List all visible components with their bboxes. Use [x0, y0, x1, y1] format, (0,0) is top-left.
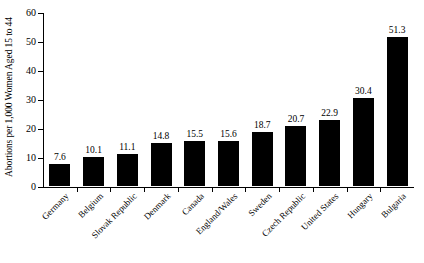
y-axis-tick: 60	[38, 13, 43, 14]
bar: 51.3	[387, 37, 408, 186]
x-axis-category-label-text: Sweden	[246, 191, 273, 218]
y-axis-tick: 20	[38, 129, 43, 130]
plot-area: 0102030405060 7.610.111.114.815.515.618.…	[43, 13, 414, 187]
bar-value-label: 7.6	[54, 151, 66, 163]
y-axis-tick-label: 30	[26, 93, 36, 106]
bar: 11.1	[117, 154, 138, 186]
x-axis-category-label-text: Denmark	[141, 191, 172, 222]
y-axis-tick: 40	[38, 71, 43, 72]
y-axis-tick: 50	[38, 42, 43, 43]
bar-value-label: 20.7	[288, 113, 305, 125]
bar: 7.6	[49, 164, 70, 186]
y-axis-tick-label: 10	[26, 151, 36, 164]
x-axis-tick	[380, 188, 381, 192]
y-axis-tick: 10	[38, 158, 43, 159]
x-axis-tick	[178, 188, 179, 192]
bar-value-label: 15.5	[186, 128, 203, 140]
x-axis-category-label-text: Canada	[180, 191, 206, 217]
bar-value-label: 51.3	[389, 24, 406, 36]
bar: 15.5	[184, 141, 205, 186]
x-axis-tick	[212, 188, 213, 192]
bar: 18.7	[252, 132, 273, 186]
y-axis-title: Abortions per 1,000 Women Aged 15 to 44	[2, 2, 16, 192]
x-axis-line	[43, 187, 414, 188]
bar: 10.1	[83, 157, 104, 186]
y-axis-tick-label: 20	[26, 122, 36, 135]
bar-value-label: 15.6	[220, 128, 237, 140]
x-axis-tick	[313, 188, 314, 192]
y-axis-line	[43, 13, 44, 188]
x-axis-tick	[279, 188, 280, 192]
x-axis-tick	[245, 188, 246, 192]
y-axis-tick-label: 0	[31, 180, 36, 193]
x-axis-tick	[110, 188, 111, 192]
y-axis-tick: 0	[38, 187, 43, 188]
y-axis-tick-label: 50	[26, 35, 36, 48]
bar: 22.9	[319, 120, 340, 186]
bar: 20.7	[285, 126, 306, 186]
bar-value-label: 22.9	[321, 107, 338, 119]
y-axis-tick-label: 40	[26, 64, 36, 77]
bar-value-label: 18.7	[254, 119, 271, 131]
y-axis-tick: 30	[38, 100, 43, 101]
bar-value-label: 11.1	[119, 141, 135, 153]
bar-value-label: 10.1	[85, 144, 102, 156]
x-axis-category-label-text: Bulgaria	[379, 191, 408, 220]
bar: 15.6	[218, 141, 239, 186]
x-axis-category-label-text: Belgium	[76, 191, 105, 220]
x-axis-tick	[347, 188, 348, 192]
bar: 30.4	[353, 98, 374, 186]
x-axis-tick	[77, 188, 78, 192]
y-axis-tick-label: 60	[26, 6, 36, 19]
bar-value-label: 14.8	[153, 130, 170, 142]
x-axis-tick	[144, 188, 145, 192]
bar: 14.8	[151, 143, 172, 186]
x-axis-category-label-text: Hungary	[345, 191, 374, 220]
bar-value-label: 30.4	[355, 85, 372, 97]
x-axis-category-label-text: Germany	[40, 191, 71, 222]
bar-chart: Abortions per 1,000 Women Aged 15 to 44 …	[0, 0, 424, 263]
